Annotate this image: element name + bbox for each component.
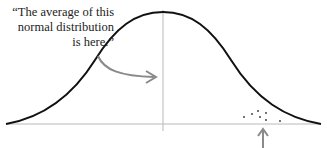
curved-arrow [98, 56, 154, 77]
annotation-line-2: normal distribution [4, 20, 114, 35]
annotation-line-3: is here.” [4, 35, 114, 50]
annotation-line-1: “The average of this [4, 5, 114, 20]
scatter-dots [243, 110, 281, 122]
annotation-quote: “The average of this normal distribution… [4, 5, 114, 50]
